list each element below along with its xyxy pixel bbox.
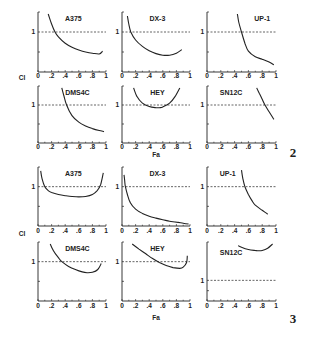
figure-3: 10.2.4.6.81A37510.2.4.6.81DX-310.2.4.6.8… — [19, 167, 297, 326]
x-tick-label: .8 — [259, 227, 265, 234]
x-tick-label: .4 — [62, 72, 68, 79]
combination-index-figures: 10.2.4.6.81A37510.2.4.6.81DX-310.2.4.6.8… — [0, 0, 309, 341]
y-tick-label: 1 — [31, 28, 35, 35]
x-tick-label: .6 — [160, 143, 166, 150]
figure-number: 3 — [290, 311, 297, 326]
panel-sn12c: 10.2.4.6.81SN12C — [200, 86, 278, 150]
x-tick-label: .6 — [246, 302, 252, 309]
x-tick-label: .4 — [232, 227, 238, 234]
y-axis-label: CI — [19, 230, 26, 237]
x-tick-label: .6 — [160, 72, 166, 79]
x-tick-label: 0 — [36, 72, 40, 79]
x-tick-label: .2 — [218, 72, 224, 79]
y-tick-label: 1 — [115, 101, 119, 108]
figure-2: 10.2.4.6.81A37510.2.4.6.81DX-310.2.4.6.8… — [19, 12, 297, 160]
x-tick-label: .8 — [174, 227, 180, 234]
x-tick-label: .4 — [232, 143, 238, 150]
panel-dx-3: 10.2.4.6.81DX-3 — [115, 12, 192, 79]
panel-title: DX-3 — [149, 15, 165, 22]
panel-title: SN12C — [220, 89, 243, 96]
y-tick-label: 1 — [200, 101, 204, 108]
x-tick-label: 1 — [188, 143, 192, 150]
panel-dms4c: 10.2.4.6.81DMS4C — [31, 86, 108, 150]
x-tick-label: .2 — [133, 143, 139, 150]
x-axis-label: Fa — [152, 151, 160, 158]
x-tick-label: 1 — [188, 227, 192, 234]
x-tick-label: .6 — [160, 302, 166, 309]
panel-hey: 10.2.4.6.81HEY — [115, 86, 192, 150]
x-tick-label: 1 — [188, 302, 192, 309]
x-tick-label: 0 — [205, 302, 209, 309]
x-tick-label: 0 — [120, 302, 124, 309]
x-tick-label: .2 — [218, 302, 224, 309]
x-tick-label: .4 — [146, 143, 152, 150]
x-tick-label: .8 — [90, 302, 96, 309]
panel-title: UP-1 — [220, 170, 236, 177]
panel-dx-3: 10.2.4.6.81DX-3 — [115, 167, 192, 234]
panel-title: UP-1 — [254, 15, 270, 22]
x-tick-label: .6 — [76, 302, 82, 309]
figure-canvas: 10.2.4.6.81A37510.2.4.6.81DX-310.2.4.6.8… — [0, 0, 309, 341]
panel-title: DMS4C — [65, 89, 90, 96]
panel-a375: 10.2.4.6.81A375 — [31, 12, 108, 79]
panel-title: HEY — [150, 245, 165, 252]
x-tick-label: 1 — [274, 143, 278, 150]
x-tick-label: .2 — [49, 227, 55, 234]
x-tick-label: .6 — [76, 72, 82, 79]
panel-hey: 10.2.4.6.81HEY — [115, 242, 192, 309]
x-tick-label: 1 — [104, 302, 108, 309]
x-tick-label: .6 — [76, 227, 82, 234]
panel-title: HEY — [150, 89, 165, 96]
panel-up-1: 10.2.4.6.81UP-1 — [200, 167, 278, 234]
x-tick-label: 0 — [205, 143, 209, 150]
y-tick-label: 1 — [31, 258, 35, 265]
panel-title: DMS4C — [65, 245, 90, 252]
y-tick-label: 1 — [115, 258, 119, 265]
y-tick-label: 1 — [115, 183, 119, 190]
y-axis-label: CI — [19, 74, 26, 81]
x-tick-label: 1 — [188, 72, 192, 79]
x-tick-label: .4 — [62, 143, 68, 150]
ci-curve-sn12c — [238, 244, 273, 251]
y-tick-label: 1 — [31, 183, 35, 190]
x-tick-label: 1 — [274, 227, 278, 234]
x-tick-label: 1 — [274, 302, 278, 309]
x-tick-label: .2 — [133, 227, 139, 234]
x-tick-label: .8 — [259, 143, 265, 150]
x-tick-label: .8 — [90, 227, 96, 234]
x-axis-label: Fa — [152, 314, 160, 321]
x-tick-label: 1 — [104, 72, 108, 79]
x-tick-label: 1 — [104, 227, 108, 234]
panel-title: DX-3 — [149, 170, 165, 177]
x-tick-label: 0 — [120, 227, 124, 234]
x-tick-label: .4 — [146, 227, 152, 234]
y-tick-label: 1 — [200, 183, 204, 190]
x-tick-label: .4 — [62, 302, 68, 309]
x-tick-label: 1 — [104, 143, 108, 150]
y-tick-label: 1 — [115, 28, 119, 35]
x-tick-label: .2 — [133, 72, 139, 79]
x-tick-label: .6 — [246, 72, 252, 79]
x-tick-label: 0 — [205, 72, 209, 79]
x-tick-label: 1 — [274, 72, 278, 79]
x-tick-label: .8 — [174, 72, 180, 79]
x-tick-label: .8 — [174, 302, 180, 309]
x-tick-label: 0 — [120, 143, 124, 150]
y-tick-label: 1 — [31, 101, 35, 108]
x-tick-label: 0 — [120, 72, 124, 79]
panel-up-1: 10.2.4.6.81UP-1 — [200, 12, 278, 79]
x-tick-label: .2 — [133, 302, 139, 309]
x-tick-label: 0 — [36, 302, 40, 309]
figure-number: 2 — [290, 145, 297, 160]
x-tick-label: .8 — [90, 72, 96, 79]
ci-curve-dx-3 — [124, 175, 189, 224]
x-tick-label: .2 — [49, 143, 55, 150]
x-tick-label: .4 — [232, 72, 238, 79]
x-tick-label: .6 — [76, 143, 82, 150]
x-tick-label: .8 — [174, 143, 180, 150]
x-tick-label: .4 — [146, 72, 152, 79]
panel-dms4c: 10.2.4.6.81DMS4C — [31, 242, 108, 309]
ci-curve-up-1 — [242, 170, 268, 214]
x-tick-label: .4 — [232, 302, 238, 309]
x-tick-label: .8 — [259, 302, 265, 309]
